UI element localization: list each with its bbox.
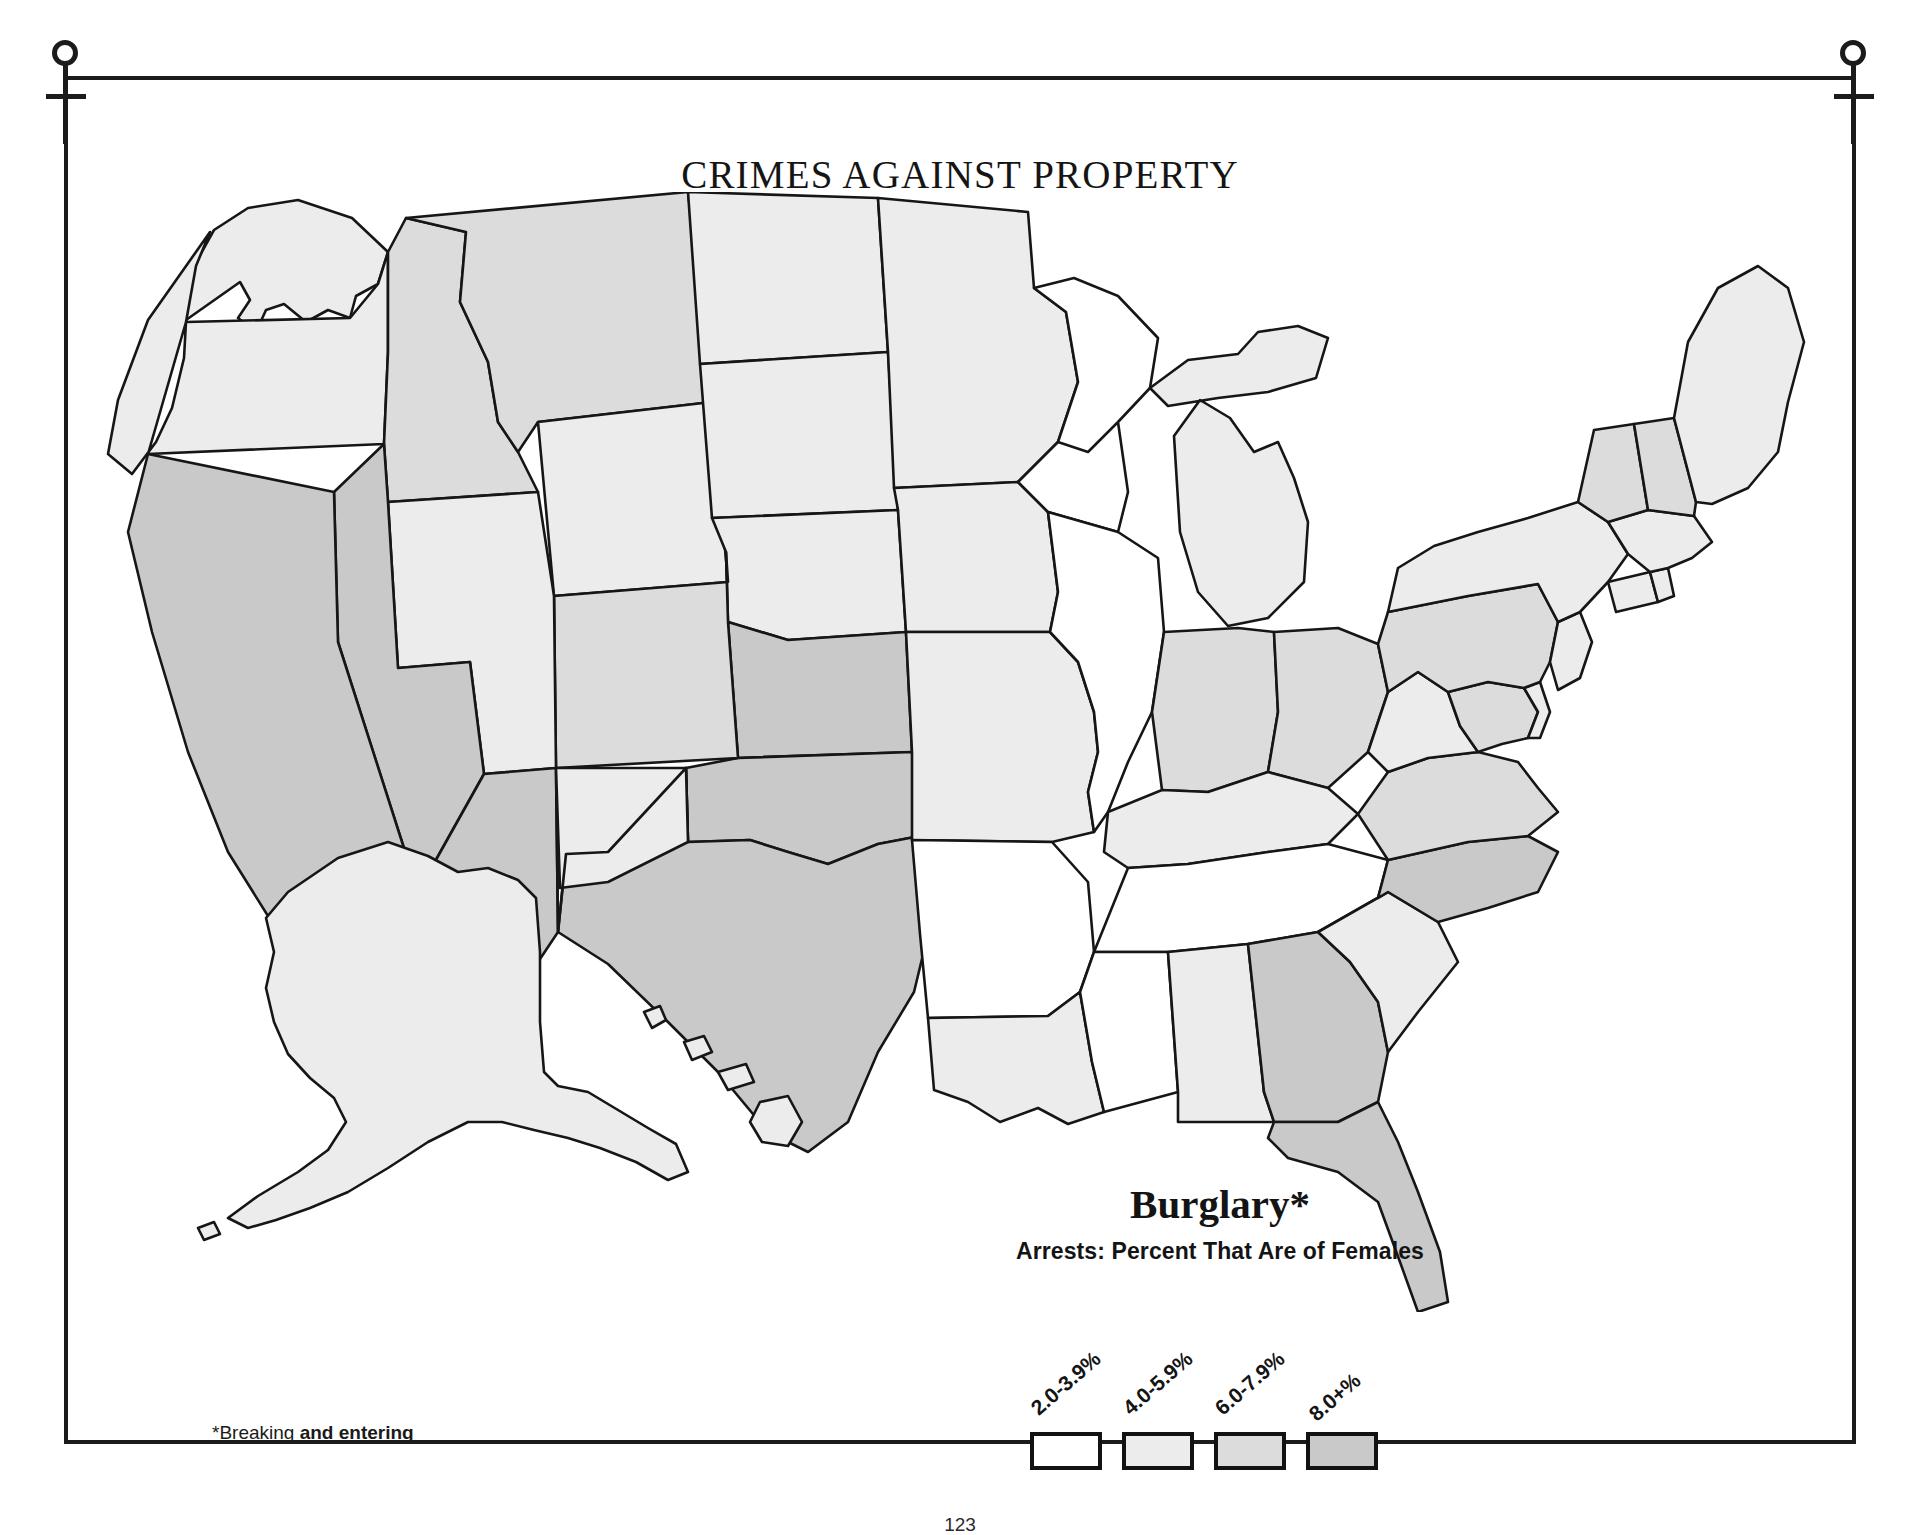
state-SD: [700, 352, 898, 518]
state-HI-kauai: [644, 1006, 666, 1028]
state-IA: [894, 482, 1058, 632]
legend-swatch-1: [1122, 1432, 1194, 1470]
legend-swatch-2: [1214, 1432, 1286, 1470]
legend-swatch-3: [1306, 1432, 1378, 1470]
frame-left-rule: [64, 76, 68, 1444]
state-MN: [878, 198, 1078, 488]
footnote-star-text: *Breaking: [212, 1422, 294, 1443]
frame-top-rule: [64, 76, 1856, 80]
frame-right-rule: [1852, 76, 1856, 1444]
venus-ring: [52, 40, 78, 66]
state-IN: [1152, 628, 1278, 792]
legend-swatches: [1030, 1432, 1378, 1470]
state-KS: [728, 622, 912, 758]
venus-female-symbol-icon: [1831, 38, 1877, 148]
legend-label-1: 4.0-5.9%: [1118, 1347, 1197, 1420]
state-ND: [688, 192, 888, 364]
state-NE: [712, 510, 906, 640]
usa-choropleth-map: [88, 192, 1848, 1312]
state-ME: [1674, 266, 1804, 504]
legend-labels: 2.0-3.9% 4.0-5.9% 6.0-7.9% 8.0+%: [1030, 1300, 1450, 1432]
legend-label-3: 8.0+%: [1304, 1368, 1365, 1426]
subject-title: Burglary*: [1010, 1180, 1430, 1228]
state-MA: [1608, 510, 1712, 572]
page-title: CRIMES AGAINST PROPERTY: [0, 152, 1920, 197]
footnote-rest-text: and entering: [294, 1422, 413, 1443]
alaska-aleutian-tip: [198, 1222, 220, 1240]
state-AR: [912, 840, 1094, 1018]
map-legend: 2.0-3.9% 4.0-5.9% 6.0-7.9% 8.0+%: [1030, 1300, 1450, 1490]
venus-crossbar: [1834, 94, 1874, 99]
footnote: *Breaking and entering: [212, 1422, 414, 1444]
venus-crossbar: [46, 94, 86, 99]
subject-subtitle: Arrests: Percent That Are of Females: [930, 1238, 1510, 1265]
state-MO: [906, 632, 1098, 842]
venus-female-symbol-icon: [43, 38, 89, 148]
venus-stem: [63, 64, 68, 144]
legend-label-2: 6.0-7.9%: [1210, 1347, 1289, 1420]
state-WY: [538, 402, 728, 596]
page-number: 123: [0, 1514, 1920, 1535]
venus-stem: [1851, 64, 1856, 144]
state-MI: [1150, 326, 1328, 626]
venus-ring: [1840, 40, 1866, 66]
legend-swatch-0: [1030, 1432, 1102, 1470]
state-OH: [1268, 628, 1388, 788]
legend-label-0: 2.0-3.9%: [1026, 1347, 1105, 1420]
